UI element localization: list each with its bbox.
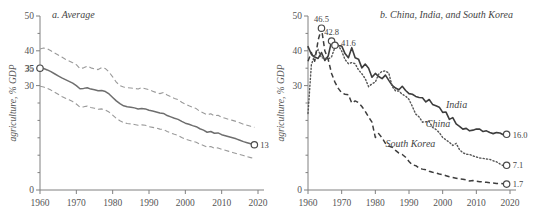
- data-label-41-6: 41.6: [341, 38, 356, 48]
- data-point-marker: [503, 181, 509, 187]
- y-axis-title: agriculture, % GDP: [8, 64, 18, 141]
- series-line-south-korea: [308, 28, 507, 184]
- chart-panel-b: 03040501960197019801990200020102020agric…: [272, 0, 544, 220]
- y-tick-label: 0: [29, 185, 34, 195]
- y-tick-label: 50: [25, 11, 35, 21]
- x-tick-label: 2000: [176, 198, 195, 208]
- panel-title-b: b. China, India, and South Korea: [380, 9, 513, 20]
- x-tick-label: 2000: [433, 198, 452, 208]
- x-tick-label: 2020: [501, 198, 520, 208]
- x-tick-label: 1980: [103, 198, 122, 208]
- data-label-7-1: 7.1: [513, 160, 524, 170]
- panel-title-a: a. Average: [52, 9, 95, 20]
- figure-container: 0303540501960197019801990200020102020agr…: [0, 0, 545, 220]
- chart-svg-a: 0303540501960197019801990200020102020agr…: [0, 0, 272, 220]
- x-tick-label: 1980: [366, 198, 385, 208]
- x-tick-label: 1960: [31, 198, 50, 208]
- y-tick-label: 30: [25, 81, 35, 91]
- data-point-marker: [251, 142, 257, 148]
- chart-svg-b: 03040501960197019801990200020102020agric…: [272, 0, 544, 220]
- series-line-india: [308, 41, 507, 135]
- data-point-marker: [332, 42, 338, 48]
- series-label-india: India: [445, 99, 467, 110]
- x-tick-label: 2020: [249, 198, 268, 208]
- data-point-marker: [503, 162, 509, 168]
- data-label-16-0: 16.0: [513, 130, 528, 140]
- data-label-46-5: 46.5: [314, 14, 329, 24]
- data-label-42-8: 42.8: [324, 27, 339, 37]
- data-label-13: 13: [260, 140, 269, 150]
- series-line-average: [40, 68, 254, 145]
- x-tick-label: 2010: [212, 198, 231, 208]
- y-tick-label: 50: [293, 11, 303, 21]
- x-tick-label: 1990: [140, 198, 159, 208]
- y-tick-label: 0: [297, 185, 302, 195]
- data-label-1-7: 1.7: [513, 179, 524, 189]
- y-axis-title: agriculture, % GDP: [276, 64, 286, 141]
- y-tick-label: 30: [293, 81, 303, 91]
- series-label-china: China: [426, 118, 450, 129]
- series-line-upper-band: [40, 48, 254, 127]
- x-tick-label: 1970: [332, 198, 351, 208]
- x-tick-label: 1960: [299, 198, 318, 208]
- chart-panel-a: 0303540501960197019801990200020102020agr…: [0, 0, 272, 220]
- data-point-marker: [37, 65, 43, 71]
- x-tick-label: 1990: [400, 198, 419, 208]
- y-tick-label: 40: [25, 46, 35, 56]
- y-tick-label: 40: [293, 46, 303, 56]
- data-label-35: 35: [26, 63, 35, 73]
- x-tick-label: 2010: [467, 198, 486, 208]
- data-point-marker: [503, 131, 509, 137]
- series-label-south-korea: South Korea: [385, 138, 435, 149]
- x-tick-label: 1970: [67, 198, 86, 208]
- series-line-lower-band: [40, 86, 254, 158]
